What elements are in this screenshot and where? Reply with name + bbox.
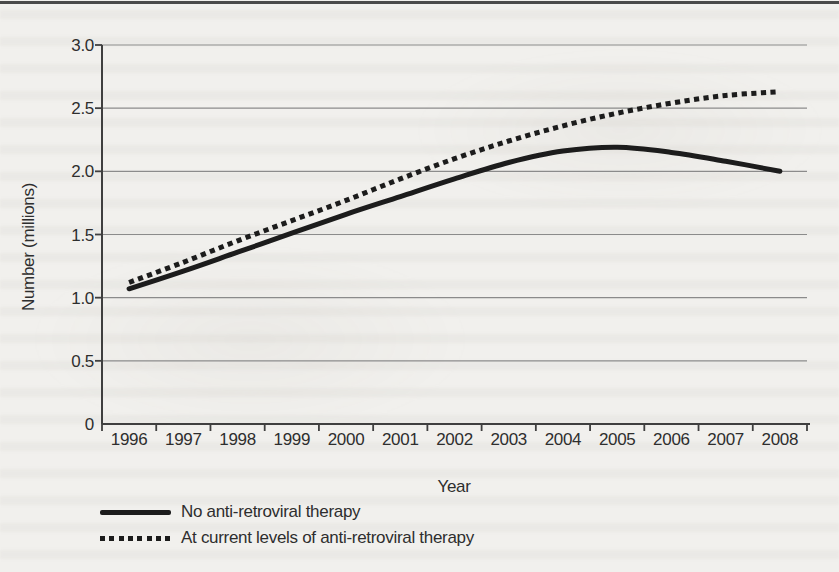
- gridlines: [102, 45, 807, 361]
- x-tick-label: 1996: [111, 430, 148, 449]
- solid-line-swatch: [100, 510, 171, 515]
- x-tick-label: 2007: [707, 430, 744, 449]
- axes: [95, 45, 810, 431]
- x-tick-label: 1997: [165, 430, 202, 449]
- x-tick-label: 2008: [762, 430, 799, 449]
- x-tick-label: 2002: [436, 430, 473, 449]
- y-tick-label: 0: [85, 415, 94, 434]
- dotted-line-swatch: [100, 536, 171, 541]
- x-tick-label: 2005: [599, 430, 636, 449]
- legend-label-no-art: No anti-retroviral therapy: [181, 502, 360, 522]
- x-axis-title: Year: [437, 477, 470, 497]
- x-tick-label: 2000: [328, 430, 365, 449]
- y-tick-labels: 00.51.01.52.02.53.0: [71, 36, 94, 434]
- line-chart: 00.51.01.52.02.53.0 19961997199819992000…: [0, 0, 839, 500]
- y-tick-label: 2.5: [71, 99, 94, 118]
- y-tick-label: 1.0: [71, 289, 94, 308]
- x-tick-labels: 1996199719981999200020012002200320042005…: [111, 430, 798, 449]
- legend-label-current-art: At current levels of anti-retroviral the…: [181, 528, 474, 548]
- series-lines: [129, 92, 780, 289]
- legend-item-current-art: At current levels of anti-retroviral the…: [100, 525, 660, 551]
- series-line-no-art: [129, 147, 780, 289]
- x-tick-label: 1998: [219, 430, 256, 449]
- y-axis-title: Number (millions): [19, 183, 39, 311]
- y-tick-label: 2.0: [71, 162, 94, 181]
- x-tick-label: 2003: [490, 430, 527, 449]
- y-tick-label: 3.0: [71, 36, 94, 55]
- x-tick-label: 2001: [382, 430, 419, 449]
- x-tick-label: 2006: [653, 430, 690, 449]
- chart-legend: No anti-retroviral therapy At current le…: [100, 499, 660, 551]
- y-tick-label: 1.5: [71, 226, 94, 245]
- legend-item-no-art: No anti-retroviral therapy: [100, 499, 660, 525]
- y-tick-label: 0.5: [71, 352, 94, 371]
- x-tick-label: 2004: [545, 430, 582, 449]
- x-tick-label: 1999: [273, 430, 310, 449]
- scanned-page: 00.51.01.52.02.53.0 19961997199819992000…: [0, 0, 839, 572]
